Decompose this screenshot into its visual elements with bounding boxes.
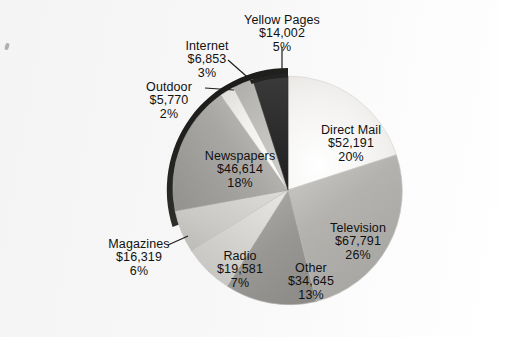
slice-label-magazines: Magazines $16,319 6% <box>98 238 180 278</box>
slice-label-outdoor-percent: 2% <box>134 108 204 121</box>
slice-label-direct-mail: Direct Mail $52,191 20% <box>305 124 397 164</box>
pie-chart-figure: Yellow Pages $14,002 5% Internet $6,853 … <box>0 0 527 355</box>
slice-label-newspapers-percent: 18% <box>190 177 290 190</box>
slice-label-internet: Internet $6,853 3% <box>172 40 242 80</box>
slice-label-other: Other $34,645 13% <box>272 262 350 302</box>
slice-label-outdoor-name: Outdoor <box>134 81 204 94</box>
slice-label-internet-percent: 3% <box>172 67 242 80</box>
slice-label-direct-mail-percent: 20% <box>305 151 397 164</box>
slice-label-newspapers: Newspapers $46,614 18% <box>190 150 290 190</box>
slice-label-television: Television $67,791 26% <box>312 222 404 262</box>
slice-label-outdoor: Outdoor $5,770 2% <box>134 81 204 121</box>
slice-label-other-percent: 13% <box>272 289 350 302</box>
slice-label-magazines-value: $16,319 <box>98 251 180 264</box>
slice-label-television-value: $67,791 <box>312 235 404 248</box>
slice-label-radio-percent: 7% <box>204 277 276 290</box>
slice-label-radio: Radio $19,581 7% <box>204 250 276 290</box>
slice-label-newspapers-value: $46,614 <box>190 163 290 176</box>
slice-label-radio-name: Radio <box>204 250 276 263</box>
slice-label-outdoor-value: $5,770 <box>134 94 204 107</box>
slice-label-other-name: Other <box>272 262 350 275</box>
slice-label-direct-mail-name: Direct Mail <box>305 124 397 137</box>
slice-label-television-name: Television <box>312 222 404 235</box>
slice-label-yellow-pages-percent: 5% <box>228 41 336 54</box>
slice-label-newspapers-name: Newspapers <box>190 150 290 163</box>
slice-label-internet-name: Internet <box>172 40 242 53</box>
slice-label-magazines-percent: 6% <box>98 265 180 278</box>
slice-label-radio-value: $19,581 <box>204 263 276 276</box>
chart-canvas: Yellow Pages $14,002 5% Internet $6,853 … <box>0 0 527 355</box>
slice-label-yellow-pages-value: $14,002 <box>228 27 336 40</box>
slice-label-yellow-pages-name: Yellow Pages <box>228 14 336 27</box>
slice-label-magazines-name: Magazines <box>98 238 180 251</box>
slice-label-direct-mail-value: $52,191 <box>305 137 397 150</box>
slice-label-internet-value: $6,853 <box>172 53 242 66</box>
slice-label-yellow-pages: Yellow Pages $14,002 5% <box>228 14 336 54</box>
slice-label-other-value: $34,645 <box>272 275 350 288</box>
